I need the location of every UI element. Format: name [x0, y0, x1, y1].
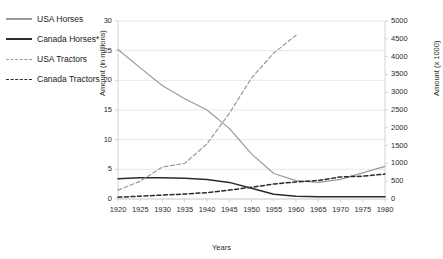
series-line-usa-horses	[118, 49, 385, 182]
plot-area	[0, 0, 443, 259]
series-line-usa-tractors	[118, 35, 296, 190]
chart-container: USA Horses Canada Horses* USA Tractors C…	[0, 0, 443, 259]
